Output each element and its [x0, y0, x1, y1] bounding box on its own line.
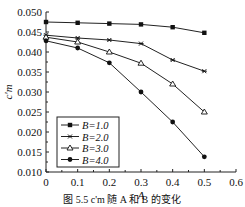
- x-tick-label: 0.2: [102, 176, 116, 188]
- square-marker: [107, 21, 111, 25]
- x-tick-label: 0.1: [71, 176, 85, 188]
- y-tick-label: 0.030: [17, 86, 42, 98]
- y-tick-label: 0.040: [17, 46, 42, 58]
- circle-marker: [44, 38, 49, 43]
- legend-label: B=2.0: [82, 132, 109, 143]
- circle-marker: [202, 154, 207, 159]
- y-tick-label: 0.010: [17, 166, 42, 178]
- legend-label: B=1.0: [82, 120, 109, 131]
- triangle-marker: [170, 81, 176, 86]
- circle-marker: [170, 120, 175, 125]
- x-tick-label: 0.3: [134, 176, 148, 188]
- circle-marker: [139, 90, 144, 95]
- figure-caption-text: 图 5.5 c'm 随 A 和 B 的变化: [63, 193, 180, 205]
- y-tick-label: 0.045: [17, 26, 42, 38]
- square-marker: [68, 123, 72, 127]
- y-tick-label: 0.015: [17, 146, 42, 158]
- y-tick-label: 0.050: [17, 6, 42, 18]
- x-tick-label: 0.5: [197, 176, 211, 188]
- x-tick-label: 0: [43, 176, 49, 188]
- y-tick-label: 0.025: [17, 106, 42, 118]
- circle-marker: [107, 60, 112, 65]
- legend-label: B=3.0: [82, 143, 109, 154]
- square-marker: [202, 31, 206, 35]
- x-tick-label: 0.4: [166, 176, 180, 188]
- star-marker: [107, 38, 112, 42]
- y-tick-label: 0.020: [17, 126, 42, 138]
- star-marker: [139, 42, 144, 46]
- circle-marker: [75, 46, 80, 51]
- series-line: [46, 22, 204, 33]
- x-tick-label: 0.6: [229, 176, 243, 188]
- square-marker: [139, 22, 143, 26]
- square-marker: [75, 21, 79, 25]
- square-marker: [170, 25, 174, 29]
- line-chart: 0.0100.0150.0200.0250.0300.0350.0400.045…: [0, 0, 245, 207]
- square-marker: [44, 20, 48, 24]
- star-marker: [170, 58, 175, 62]
- y-axis-label: c'm: [2, 84, 14, 99]
- star-marker: [202, 69, 207, 73]
- y-tick-label: 0.035: [17, 66, 42, 78]
- circle-marker: [68, 157, 73, 162]
- legend-label: B=4.0: [82, 155, 109, 166]
- series-line: [46, 37, 204, 112]
